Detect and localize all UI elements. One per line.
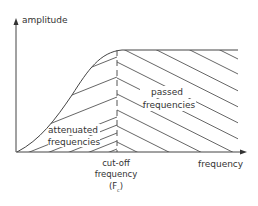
cutoff-subscript: c <box>117 187 120 193</box>
attenuated-label-line-2: frequencies <box>48 137 101 147</box>
cutoff-label-line-2: frequency <box>95 169 138 179</box>
x-axis-label: frequency <box>198 159 244 169</box>
attenuated-label-line-1: attenuated <box>48 125 98 135</box>
passed-label-line-1: passed <box>151 87 183 97</box>
y-axis-label: amplitude <box>22 15 68 25</box>
y-axis-arrow-icon <box>14 18 19 25</box>
passed-hatch <box>117 25 258 206</box>
passed-label-line-2: frequencies <box>143 100 196 110</box>
high-pass-filter-diagram: amplitude frequency passed frequencies a… <box>0 0 258 206</box>
x-axis-arrow-icon <box>240 150 247 155</box>
cutoff-label-line-3: (F ) <box>109 181 123 191</box>
cutoff-label-line-1: cut-off <box>102 158 131 168</box>
hatch-pattern <box>17 25 258 206</box>
